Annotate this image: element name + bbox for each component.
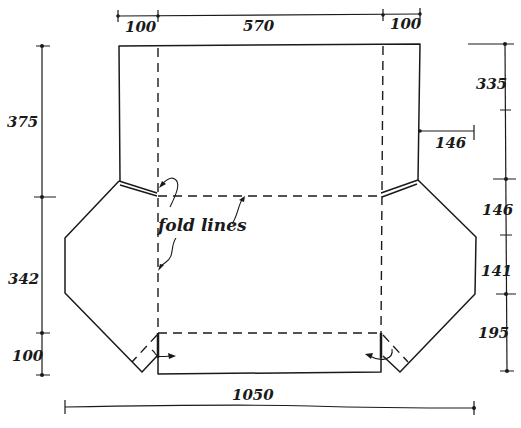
dim-bottom-total: 1050 — [232, 386, 274, 404]
dim-top-left-flap: 100 — [125, 18, 157, 36]
fold-lines-label: fold lines — [157, 215, 247, 235]
fold-right-vertical — [381, 46, 383, 333]
top-dimension: 100 570 100 — [116, 8, 422, 36]
inner-flap-dimension: 146 — [418, 125, 474, 152]
left-dimension: 375 342 100 — [7, 44, 56, 377]
dim-left-bottom: 100 — [12, 347, 44, 365]
dim-right-middle-side: 141 — [481, 262, 512, 280]
fold-lines-annotation: fold lines — [157, 178, 247, 271]
dim-left-middle: 342 — [8, 270, 39, 288]
right-dimension: 335 146 141 195 — [468, 42, 516, 373]
dim-left-upper: 375 — [7, 113, 38, 131]
left-side-outline — [65, 181, 157, 372]
bottom-tab-outline — [158, 333, 381, 374]
diagram-canvas: 100 570 100 375 342 100 335 146 141 — [0, 0, 521, 428]
dim-inner-flap: 146 — [435, 134, 467, 152]
right-side-outline — [381, 180, 476, 372]
fold-left-corner — [132, 335, 157, 362]
left-tab-fold-arrow — [152, 350, 170, 357]
fold-lines — [132, 46, 408, 362]
top-panel-outline — [119, 44, 420, 181]
dim-right-bottom-side: 195 — [478, 324, 509, 342]
dim-right-upper-side: 146 — [482, 201, 514, 219]
dim-top-right-flap: 100 — [390, 15, 422, 33]
box-net-diagram: 100 570 100 375 342 100 335 146 141 — [0, 0, 521, 428]
net-outline — [65, 44, 476, 374]
bottom-dimension: 1050 — [65, 386, 476, 415]
dim-top-center: 570 — [243, 17, 275, 35]
dim-right-upper: 335 — [476, 75, 507, 93]
pointer-arrow-lower — [160, 238, 176, 268]
tab-fold-arrows — [152, 349, 392, 359]
